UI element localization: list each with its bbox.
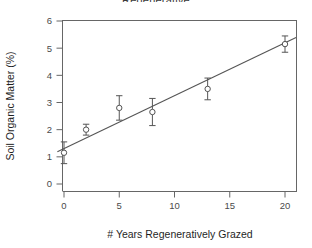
y-tick-label: 2 xyxy=(47,124,52,135)
chart-figure: Regenerative 0123456 05101520 # Years Re… xyxy=(0,0,312,248)
data-point-marker xyxy=(150,109,155,114)
x-tick-label: 0 xyxy=(61,200,66,211)
x-tick-label: 5 xyxy=(117,200,122,211)
data-point-marker xyxy=(282,41,287,46)
x-axis-title: # Years Regeneratively Grazed xyxy=(107,228,252,240)
y-tick-label: 4 xyxy=(47,70,52,81)
x-tick-label: 15 xyxy=(224,200,235,211)
y-tick-label: 3 xyxy=(47,97,52,108)
scatter-plot-canvas: 0123456 05101520 # Years Regeneratively … xyxy=(0,0,312,248)
y-axis-title: Soil Organic Matter (%) xyxy=(4,51,16,160)
y-tick-label: 0 xyxy=(47,178,52,189)
y-tick-label: 1 xyxy=(47,151,52,162)
y-tick-label: 5 xyxy=(47,43,52,54)
x-tick-label: 10 xyxy=(169,200,180,211)
data-point-marker xyxy=(83,127,88,132)
data-point-marker xyxy=(117,105,122,110)
data-point-marker xyxy=(61,150,66,155)
data-point-marker xyxy=(205,86,210,91)
x-tick-label: 20 xyxy=(280,200,291,211)
chart-title-clipped: Regenerative xyxy=(0,0,312,2)
y-tick-label: 6 xyxy=(47,15,52,26)
